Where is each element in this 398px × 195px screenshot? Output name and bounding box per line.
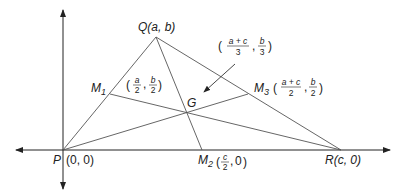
svg-text:(: (: [216, 155, 220, 169]
svg-text:3: 3: [260, 47, 265, 57]
label-M3: M3: [254, 81, 269, 97]
svg-text:0: 0: [235, 154, 242, 168]
svg-text:a + c: a + c: [229, 36, 248, 46]
svg-text:): ): [268, 39, 272, 53]
svg-text:b: b: [151, 75, 156, 85]
svg-text:(: (: [273, 81, 277, 95]
centroid-diagram: Q(a, b) M1 ( a 2 , b 2 ) G ( a + c 3 , b…: [0, 0, 398, 195]
median-P-M3: [63, 94, 248, 150]
coords-M1: ( a 2 , b 2 ): [126, 75, 162, 95]
svg-text:(: (: [218, 39, 222, 53]
svg-text:b: b: [260, 36, 265, 46]
label-R: R(c, 0): [325, 153, 361, 167]
svg-text:,: ,: [304, 80, 307, 94]
coords-G: ( a + c 3 , b 3 ): [218, 36, 272, 57]
label-G: G: [187, 96, 196, 110]
label-M2: M2: [198, 153, 213, 169]
label-M1: M1: [91, 81, 106, 97]
svg-text:2: 2: [289, 88, 294, 98]
svg-text:2: 2: [151, 85, 156, 95]
svg-text:2: 2: [311, 88, 316, 98]
svg-text:3: 3: [236, 47, 241, 57]
svg-text:a + c: a + c: [282, 77, 301, 87]
coords-P: (0, 0): [66, 153, 94, 167]
svg-text:): ): [243, 155, 247, 169]
svg-text:,: ,: [143, 77, 146, 91]
side-PQ: [63, 37, 156, 150]
svg-text:): ): [319, 81, 323, 95]
coords-M3: ( a + c 2 , b 2 ): [273, 77, 323, 98]
svg-text:(: (: [126, 78, 130, 92]
svg-text:): ): [158, 78, 162, 92]
centroid-pointer-arrow: [204, 64, 235, 92]
median-Q-M2: [156, 37, 202, 150]
svg-text:,: ,: [252, 39, 255, 53]
svg-text:b: b: [311, 77, 316, 87]
svg-text:a: a: [135, 75, 140, 85]
svg-text:2: 2: [223, 162, 228, 172]
label-Q: Q(a, b): [138, 20, 175, 34]
svg-text:c: c: [223, 152, 228, 162]
label-P: P: [53, 153, 61, 167]
svg-text:2: 2: [135, 85, 140, 95]
svg-text:,: ,: [230, 154, 233, 168]
median-R-M1: [110, 94, 341, 150]
coords-M2: ( c 2 , 0 ): [216, 152, 247, 172]
